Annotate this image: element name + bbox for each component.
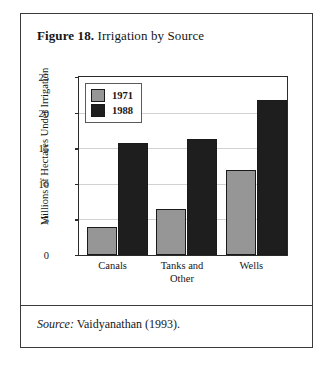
y-tick-label: 15 xyxy=(23,143,49,154)
y-tick-label: 25 xyxy=(23,72,49,83)
bar-1971-wells[interactable] xyxy=(226,170,256,255)
bar-1988-tanks-and-other[interactable] xyxy=(187,139,217,255)
figure-title: Figure 18. Irrigation by Source xyxy=(37,28,204,44)
bar-1971-canals[interactable] xyxy=(87,227,117,255)
bar-group xyxy=(148,77,217,255)
figure-frame: Figure 18. Irrigation by Source Millions… xyxy=(20,13,313,348)
y-tick-mark xyxy=(75,255,79,256)
y-tick-label: 5 xyxy=(23,214,49,225)
legend-label-1971: 1971 xyxy=(112,90,133,101)
bar-1988-wells[interactable] xyxy=(257,100,287,255)
legend-item-1988[interactable]: 1988 xyxy=(91,103,133,118)
source-divider xyxy=(21,305,312,306)
source-citation: Vaidyanathan (1993). xyxy=(77,317,180,331)
legend-swatch-1971 xyxy=(91,89,105,102)
figure-title-text: Irrigation by Source xyxy=(97,28,204,43)
y-tick-label: 0 xyxy=(23,250,49,261)
x-tick-label: Wells xyxy=(205,259,297,272)
legend-label-1988: 1988 xyxy=(112,105,133,116)
bar-group xyxy=(218,77,287,255)
y-tick-label: 10 xyxy=(23,178,49,189)
bar-1971-tanks-and-other[interactable] xyxy=(156,209,186,255)
legend-item-1971[interactable]: 1971 xyxy=(91,88,133,103)
bar-1988-canals[interactable] xyxy=(118,143,148,255)
y-tick-label: 20 xyxy=(23,107,49,118)
source-line: Source: Vaidyanathan (1993). xyxy=(37,317,180,332)
source-label: Source: xyxy=(37,317,74,331)
chart-legend: 19711988 xyxy=(85,83,142,123)
plot-area: 0510152025 19711988 xyxy=(78,76,288,256)
figure-number: Figure 18. xyxy=(37,28,94,43)
bar-chart: Millions of Hectares Under Irrigation 05… xyxy=(21,59,314,309)
legend-swatch-1988 xyxy=(91,104,105,117)
